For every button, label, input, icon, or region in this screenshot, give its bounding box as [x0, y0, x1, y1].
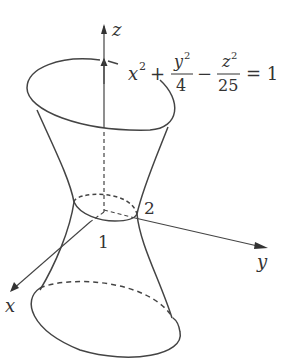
y-axis	[104, 210, 268, 249]
x-axis	[10, 212, 104, 292]
svg-text:−: −	[197, 63, 212, 84]
y-axis-label: y	[256, 251, 268, 272]
svg-text:4: 4	[176, 76, 186, 95]
svg-text:= 1: = 1	[246, 63, 278, 84]
svg-text:25: 25	[218, 76, 238, 95]
svg-text:y: y	[173, 52, 184, 71]
z-axis-label: z	[111, 19, 122, 40]
svg-text:x: x	[128, 63, 138, 84]
svg-text:z: z	[221, 52, 231, 71]
equation: x 2 + y 2 4 − z 2 25 = 1	[128, 50, 278, 95]
waist-ellipse	[74, 194, 137, 221]
x-axis-label: x	[5, 295, 15, 316]
svg-text:2: 2	[184, 50, 190, 61]
svg-text:2: 2	[139, 60, 146, 73]
svg-text:+: +	[150, 63, 165, 84]
x-intercept-label: 1	[98, 232, 109, 252]
y-intercept-label: 2	[144, 198, 155, 218]
bottom-ellipse	[31, 282, 180, 358]
hyperboloid-diagram: z y x 1 2 x 2 + y 2 4 − z 2 25 = 1	[0, 0, 287, 363]
svg-text:2: 2	[231, 50, 237, 61]
lower-surface-sides	[40, 202, 172, 318]
z-axis	[101, 24, 107, 212]
